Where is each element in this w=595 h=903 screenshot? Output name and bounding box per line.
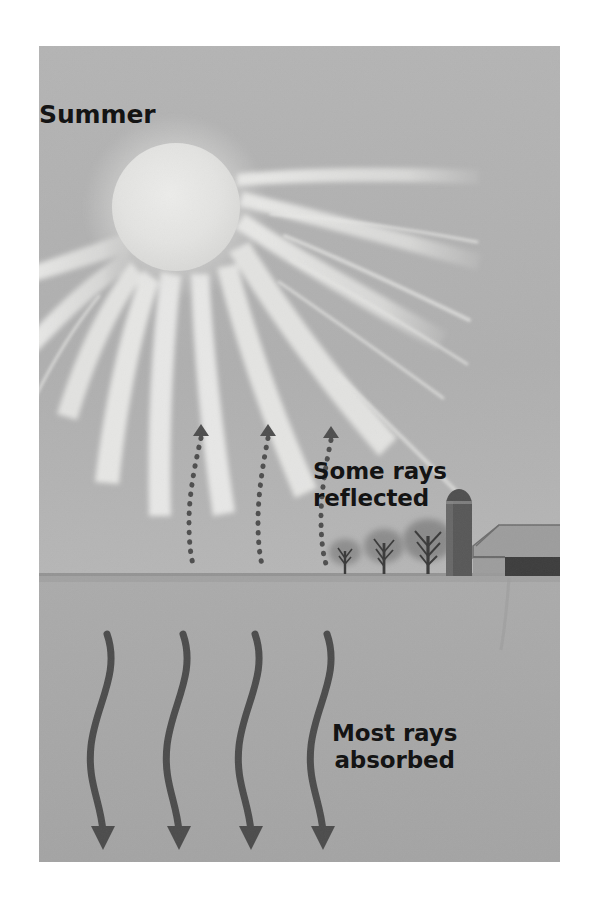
sun-disc — [112, 143, 240, 271]
figure-page: Summer Some rays reflected Most rays abs… — [0, 0, 595, 903]
silo-band — [446, 501, 472, 504]
label-some-rays-reflected: Some rays reflected — [313, 458, 447, 511]
scene-svg — [39, 46, 560, 862]
silo-highlight — [446, 501, 453, 576]
horizon-shadow — [39, 576, 560, 582]
label-most-rays-absorbed: Most rays absorbed — [332, 720, 457, 773]
barn-wall — [505, 557, 560, 576]
illustration-plate — [39, 46, 560, 862]
silo — [446, 489, 472, 576]
barn-lean-to — [473, 558, 505, 576]
label-summer: Summer — [39, 100, 156, 129]
ground — [39, 575, 560, 862]
